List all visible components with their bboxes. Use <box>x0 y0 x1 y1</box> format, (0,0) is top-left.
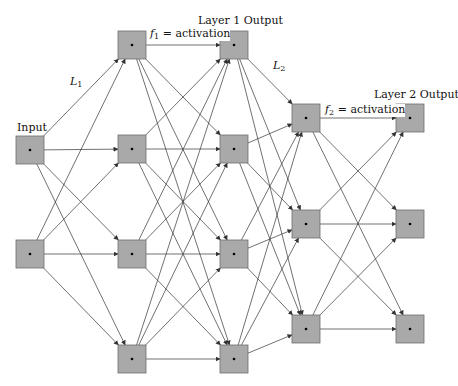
node-dot <box>233 253 236 256</box>
node-layer1_in-3 <box>118 345 146 373</box>
edge <box>241 238 298 345</box>
node-dot <box>409 328 412 331</box>
edge <box>238 132 302 345</box>
neural-network-diagram: Input Layer 1 Output Layer 2 Output L1 L… <box>0 0 458 386</box>
node-dot <box>305 328 308 331</box>
f1-text: = activation <box>159 27 230 40</box>
node-dot <box>131 44 134 47</box>
node-layer2_out-2 <box>396 315 424 343</box>
node-layer1_in-1 <box>118 135 146 163</box>
edge <box>37 164 125 345</box>
node-dot <box>131 253 134 256</box>
edge <box>44 59 119 136</box>
node-layer2_in-1 <box>292 210 320 238</box>
L2-label: L2 <box>273 60 285 73</box>
node-layer2_in-2 <box>292 315 320 343</box>
node-layer1_in-2 <box>118 240 146 268</box>
node-dot <box>305 223 308 226</box>
edge <box>44 268 119 345</box>
L1-subscript: 1 <box>77 80 82 89</box>
node-input-1 <box>16 240 44 268</box>
node-layer2_out-1 <box>396 210 424 238</box>
edges <box>37 45 403 359</box>
node-dot <box>233 148 236 151</box>
layer1-output-label: Layer 1 Output <box>198 15 283 26</box>
node-layer2_in-0 <box>292 104 320 132</box>
node-layer1_out-2 <box>220 240 248 268</box>
node-dot <box>409 117 412 120</box>
node-dot <box>233 358 236 361</box>
L2-subscript: 2 <box>280 64 285 73</box>
f1-activation-label: f1 = activation <box>150 28 230 41</box>
edge <box>248 59 292 104</box>
node-dot <box>131 358 134 361</box>
f2-text: = activation <box>334 103 405 116</box>
node-input-0 <box>16 136 44 164</box>
f2-activation-label: f2 = activation <box>325 104 405 117</box>
node-dot <box>409 223 412 226</box>
input-label: Input <box>17 122 47 133</box>
node-dot <box>131 148 134 151</box>
node-dot <box>233 44 236 47</box>
edge <box>248 335 292 353</box>
node-layer1_in-0 <box>118 31 146 59</box>
node-dot <box>29 149 32 152</box>
network-graph <box>0 0 458 386</box>
layer2-output-label: Layer 2 Output <box>374 89 458 100</box>
node-layer1_out-1 <box>220 135 248 163</box>
edge <box>241 132 298 240</box>
node-dot <box>305 117 308 120</box>
node-layer1_out-3 <box>220 345 248 373</box>
L1-label: L1 <box>70 76 82 89</box>
node-dot <box>29 253 32 256</box>
